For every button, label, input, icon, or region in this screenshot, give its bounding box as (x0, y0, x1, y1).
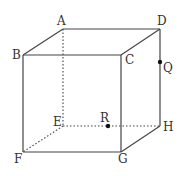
label-H: H (163, 120, 173, 134)
label-Q: Q (163, 61, 173, 75)
edge-GH (121, 126, 160, 152)
label-F: F (14, 152, 22, 166)
edge-CD (121, 29, 160, 55)
edge-AB (23, 29, 63, 55)
point-Q (158, 60, 162, 64)
cube-diagram: A B C D E F G H Q R (0, 0, 187, 176)
label-D: D (157, 14, 167, 28)
label-C: C (125, 53, 134, 67)
label-A: A (56, 14, 66, 28)
label-R: R (100, 111, 110, 125)
label-B: B (12, 48, 21, 62)
label-E: E (53, 115, 62, 129)
edge-EF (23, 126, 63, 152)
label-G: G (118, 152, 128, 166)
